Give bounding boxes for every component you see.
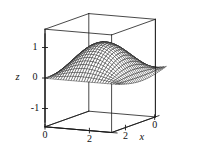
x-axis-title: x <box>138 131 144 142</box>
z-axis-tick-label: 1 <box>33 41 38 52</box>
surface-plot-figure: 10-1z02y20x <box>0 0 206 147</box>
y-axis-line <box>45 127 117 133</box>
surface-plot-canvas: 10-1z02y20x <box>0 0 206 147</box>
y-axis-title: y <box>77 144 83 147</box>
z-axis-tick-label: -1 <box>31 102 39 113</box>
y-axis-tick-label: 2 <box>87 133 92 144</box>
y-axis-tick-label: 0 <box>43 129 48 140</box>
z-axis-tick-label: 0 <box>33 71 38 82</box>
x-axis-tick-label: 2 <box>123 130 128 141</box>
x-axis-tick-label: 0 <box>152 119 157 130</box>
z-axis-title: z <box>14 71 19 82</box>
surface-mesh <box>45 42 166 84</box>
